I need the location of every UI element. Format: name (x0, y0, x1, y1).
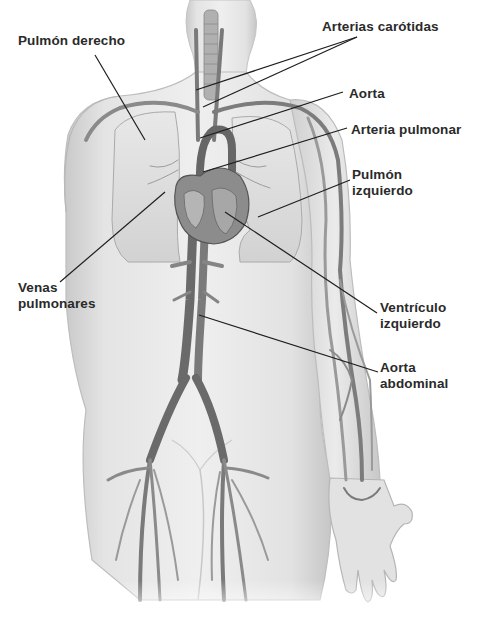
label-line: Venas (18, 280, 96, 296)
label-line: Pulmón (352, 167, 413, 183)
label-arterias-carotidas: Arterias carótidas (322, 19, 439, 35)
label-pulmon-izquierdo: Pulmónizquierdo (352, 167, 413, 199)
label-line: Arteria pulmonar (351, 122, 461, 138)
label-line: abdominal (380, 376, 448, 392)
bottom-fade (0, 580, 478, 624)
label-line: Arterias carótidas (322, 19, 439, 35)
label-line: izquierdo (352, 183, 413, 199)
label-line: Aorta (380, 360, 448, 376)
circulatory-system-diagram: Pulmón derechoArterias carótidasAortaArt… (0, 0, 478, 624)
label-line: pulmonares (18, 296, 96, 312)
label-aorta-abdominal: Aortaabdominal (380, 360, 448, 392)
label-aorta: Aorta (349, 86, 385, 102)
label-line: Pulmón derecho (18, 33, 125, 49)
label-arteria-pulmonar: Arteria pulmonar (351, 122, 461, 138)
label-line: izquierdo (380, 316, 446, 332)
label-line: Aorta (349, 86, 385, 102)
label-pulmon-derecho: Pulmón derecho (18, 33, 125, 49)
right-lung (112, 112, 180, 262)
label-venas-pulmonares: Venaspulmonares (18, 280, 96, 312)
heart (175, 168, 249, 244)
label-ventriculo-izquierdo: Ventrículoizquierdo (380, 300, 446, 332)
label-line: Ventrículo (380, 300, 446, 316)
